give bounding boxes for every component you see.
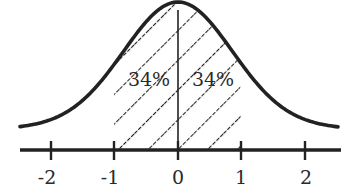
tick-label-2: 2 (300, 166, 312, 188)
tick-label-1: 1 (235, 166, 247, 188)
tick-label-minus-2: -2 (38, 166, 57, 188)
right-percent-label: 34% (192, 68, 234, 90)
normal-distribution-diagram: -2 -1 0 1 2 34% 34% (0, 0, 350, 189)
left-percent-label: 34% (128, 68, 170, 90)
tick-label-0: 0 (172, 166, 184, 188)
tick-label-minus-1: -1 (101, 166, 120, 188)
